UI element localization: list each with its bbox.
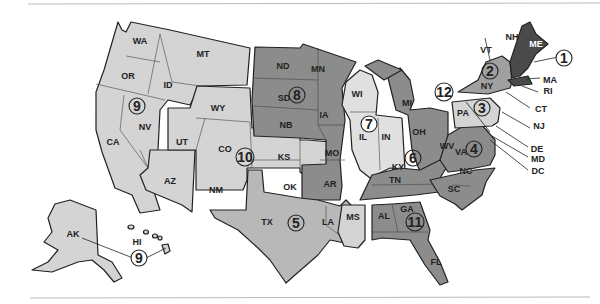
label-de: DE [531,144,544,154]
label-mo: MO [325,148,340,158]
district-9-number-ak-hi: 9 [135,250,143,266]
district-12-number: 12 [436,84,452,100]
label-sc: SC [448,184,461,194]
district-9-number-mainland: 9 [133,98,141,114]
label-pa: PA [457,108,469,118]
label-fl: FL [431,257,442,267]
label-il: IL [359,132,368,142]
label-ca: CA [107,137,120,147]
label-me: ME [529,39,543,49]
label-ct: CT [535,104,547,114]
label-al: AL [378,211,390,221]
label-ma: MA [543,75,557,85]
label-nd: ND [277,61,290,71]
label-hi: HI [133,237,142,247]
label-wa: WA [133,36,148,46]
label-md: MD [531,154,545,164]
label-ms: MS [346,212,360,222]
label-ut: UT [176,137,188,147]
district-7-number: 7 [365,116,373,132]
label-nj: NJ [533,121,545,131]
label-in: IN [382,132,391,142]
label-nc: NC [460,166,473,176]
region-alaska-hawaii [32,200,170,282]
district-3-number: 3 [478,100,486,116]
label-mt: MT [197,49,210,59]
label-ga: GA [400,204,414,214]
label-ky: KY [392,162,405,172]
label-nb: NB [280,120,293,130]
label-tx: TX [261,217,273,227]
district-5-number: 5 [292,215,300,231]
label-nm: NM [209,185,223,195]
label-mi: MI [402,98,412,108]
district-2-number: 2 [486,63,494,79]
label-ny: NY [481,81,494,91]
district-10-number: 10 [237,149,253,165]
district-8-number: 8 [293,87,301,103]
label-ar: AR [324,179,337,189]
map-canvas: WA MT OR ID NV CA AZ WY UT CO NM KS OK T… [0,0,600,304]
label-nh: NH [506,32,519,42]
label-vt: VT [480,45,492,55]
bottom-rule [30,297,590,298]
label-wy: WY [211,103,226,113]
label-wi: WI [352,89,363,99]
label-ri: RI [544,86,553,96]
label-tn: TN [389,175,401,185]
label-ok: OK [283,182,297,192]
label-ak: AK [67,229,80,239]
label-dc: DC [532,166,545,176]
region-district-8 [252,44,356,200]
label-wv: WV [440,141,455,151]
label-co: CO [218,144,232,154]
label-az: AZ [164,176,176,186]
label-nv: NV [139,122,152,132]
district-11-number: 11 [408,214,423,230]
label-mn: MN [311,64,325,74]
label-ia: IA [320,110,330,120]
label-or: OR [121,71,135,81]
label-ks: KS [278,152,291,162]
top-rule [28,3,600,4]
district-1-number: 1 [560,50,568,66]
us-district-map: WA MT OR ID NV CA AZ WY UT CO NM KS OK T… [0,0,600,304]
label-oh: OH [412,127,426,137]
label-id: ID [164,80,174,90]
district-6-number: 6 [409,150,417,166]
district-4-number: 4 [470,141,478,157]
label-la: LA [322,217,334,227]
